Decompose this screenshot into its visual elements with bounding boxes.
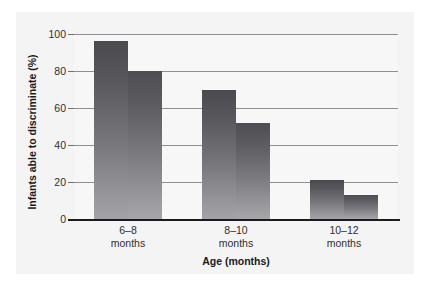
- y-axis-tick: [68, 34, 74, 35]
- x-axis-tick-label-line1: 8–10: [224, 224, 247, 236]
- gridline: [74, 34, 398, 35]
- x-axis-tick-label-line2: months: [176, 237, 296, 250]
- bar: [310, 180, 344, 219]
- x-axis-tick-label-line2: months: [68, 237, 188, 250]
- bar-chart: 020406080100 Infants able to discriminat…: [0, 0, 424, 289]
- y-axis-tick: [68, 145, 74, 146]
- bar: [236, 123, 270, 219]
- x-axis-tick-label-line1: 6–8: [119, 224, 137, 236]
- x-axis-title: Age (months): [74, 255, 398, 267]
- bar: [94, 41, 128, 219]
- x-axis-tick-label-line1: 10–12: [329, 224, 358, 236]
- y-axis-tick: [68, 108, 74, 109]
- bar: [344, 195, 378, 219]
- x-axis-tick-label-line2: months: [284, 237, 404, 250]
- y-axis-title: Infants able to discriminate (%): [26, 37, 38, 227]
- x-axis-tick-label: 8–10months: [176, 224, 296, 249]
- x-axis-tick-label: 10–12months: [284, 224, 404, 249]
- bar: [128, 71, 162, 219]
- bar: [202, 90, 236, 220]
- y-axis-tick: [68, 182, 74, 183]
- y-axis-tick: [68, 71, 74, 72]
- x-axis-line: [68, 219, 400, 221]
- x-axis-tick-label: 6–8months: [68, 224, 188, 249]
